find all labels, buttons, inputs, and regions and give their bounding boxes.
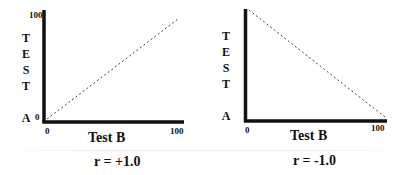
y-label-letter: T [220, 76, 232, 92]
chart-negative-correlation: 0 100 T E S T A Test B r = -1.0 [205, 0, 410, 175]
y-label-letter: S [220, 60, 232, 76]
x-tick-100: 100 [371, 123, 385, 133]
y-label-letter: E [20, 46, 32, 62]
x-tick-0: 0 [245, 125, 250, 135]
y-tick-100: 100 [29, 10, 43, 20]
x-axis-label: Test B [290, 128, 327, 144]
y-label-letter: S [20, 62, 32, 78]
divider [0, 150, 410, 151]
y-label-letter: T [20, 30, 32, 46]
y-axis-label: T E S T A [20, 30, 32, 126]
correlation-line [249, 10, 385, 117]
correlation-line [47, 19, 178, 119]
y-axis-label: T E S T A [220, 28, 232, 124]
y-label-letter: E [220, 44, 232, 60]
y-tick-0: 0 [35, 112, 40, 122]
correlation-coefficient: r = -1.0 [293, 153, 336, 169]
y-label-letter: T [220, 28, 232, 44]
y-label-letter: A [20, 110, 32, 126]
x-tick-100: 100 [170, 126, 184, 136]
correlation-coefficient: r = +1.0 [94, 154, 140, 170]
x-axis-label: Test B [88, 130, 125, 146]
y-label-gap [220, 92, 232, 108]
plot-area [205, 0, 410, 175]
y-label-letter: T [20, 78, 32, 94]
y-label-gap [20, 94, 32, 110]
chart-positive-correlation: 100 0 0 100 T E S T A Test B r = +1.0 [0, 0, 205, 175]
y-label-letter: A [220, 108, 232, 124]
x-tick-0: 0 [45, 126, 50, 136]
